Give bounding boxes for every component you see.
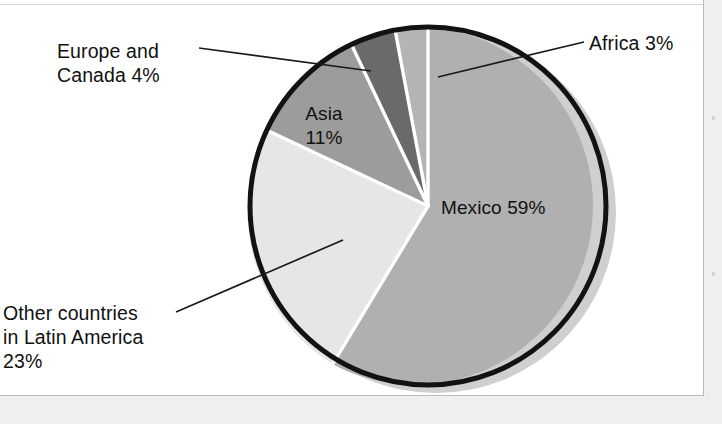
label-mexico: Mexico 59% — [441, 196, 546, 220]
label-europe-canada: Europe and Canada 4% — [57, 39, 160, 87]
figure-page: Europe and Canada 4% Africa 3% Asia 11% … — [0, 0, 722, 424]
label-asia: Asia 11% — [289, 102, 359, 150]
label-other-latin-america: Other countries in Latin America 23% — [3, 301, 143, 373]
label-africa: Africa 3% — [589, 31, 673, 55]
